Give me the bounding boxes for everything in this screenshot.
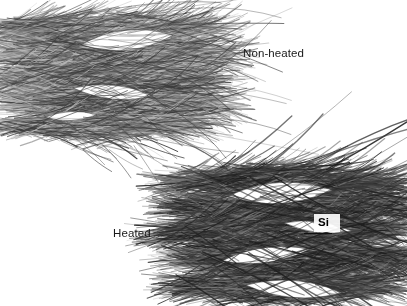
sem-micrograph-image <box>0 0 407 306</box>
annotation-label-si: Si <box>318 216 329 229</box>
si-annotation-group: Si <box>318 216 329 229</box>
specimen-label-heated: Heated <box>113 227 151 239</box>
specimen-label-non-heated: Non-heated <box>243 47 304 59</box>
si-leader-line <box>304 233 332 234</box>
figure-root: Non-heated Heated Si <box>0 0 407 306</box>
